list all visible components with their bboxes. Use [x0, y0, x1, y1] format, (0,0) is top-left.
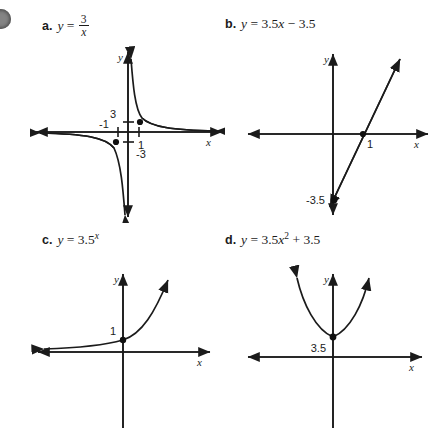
equation-b-constant: − 3.5	[288, 16, 316, 31]
graph-a-point-1-3	[137, 119, 143, 125]
graph-b-y-axis-letter: y	[323, 53, 329, 65]
graph-b-point-x-intercept	[360, 131, 366, 137]
graph-d-y-axis-letter: y	[323, 273, 329, 285]
choice-label-a: a.y = 3x	[42, 14, 90, 39]
equation-b-variable: x	[278, 16, 284, 31]
graph-c-y-axis-letter: y	[113, 273, 119, 285]
choice-tag-b: b.	[225, 17, 236, 31]
choice-label-d: d.y = 3.5x2 + 3.5	[225, 231, 320, 246]
graph-a-branch-lower-left-arrow	[40, 133, 114, 148]
equation-a: y = 3x	[57, 18, 89, 33]
graph-d-x-axis-letter: x	[408, 361, 414, 373]
equation-d-constant: + 3.5	[292, 232, 320, 247]
graph-b-line: 1 -3.5 y x	[240, 45, 435, 223]
fraction-denominator: x	[79, 25, 89, 38]
equation-b-lhs: y	[241, 16, 247, 31]
graph-b-point-y-intercept	[331, 197, 338, 204]
equation-c-equals: =	[67, 232, 75, 247]
graph-d-svg: 3.5 y x	[240, 262, 435, 432]
fraction-numerator: 3	[79, 13, 89, 25]
graph-a-point-neg1-neg3	[113, 139, 119, 145]
graph-a-label-neg1: -1	[99, 118, 109, 130]
graph-b-label-1: 1	[367, 138, 373, 150]
fraction-3-over-x: 3x	[79, 13, 89, 38]
cropped-bullet-marker	[0, 9, 11, 29]
equation-d-power: 2	[284, 230, 289, 240]
choice-label-b: b.y = 3.5x − 3.5	[225, 17, 316, 31]
choice-tag-a: a.	[42, 19, 52, 33]
graph-b-label-neg3point5: -3.5	[306, 194, 325, 206]
choice-tag-c: c.	[42, 233, 52, 247]
equation-d-lhs: y	[241, 232, 247, 247]
graph-a-x-axis-letter: x	[205, 136, 211, 148]
graph-a-branch-upper-right-arrow	[142, 118, 216, 131]
equation-b-equals: =	[250, 16, 258, 31]
graph-c-svg: 1 y x	[30, 262, 225, 432]
graph-b-x-axis-letter: x	[413, 138, 419, 150]
equation-c: y = 3.5x	[57, 232, 98, 247]
graph-b-svg: 1 -3.5 y x	[240, 45, 435, 223]
equation-d: y = 3.5x2 + 3.5	[241, 232, 320, 247]
graph-a-svg: 3 -1 1 -3 y x	[30, 45, 225, 223]
graph-c-x-axis-letter: x	[196, 356, 202, 368]
graph-d-label-3point5: 3.5	[311, 342, 326, 354]
graph-c-label-1: 1	[110, 325, 116, 337]
equation-c-base: 3.5	[78, 232, 95, 247]
worksheet-page: a.y = 3x b.y = 3.5x − 3.5 c.y = 3.5x d.y…	[0, 0, 439, 434]
equation-d-equals: =	[250, 232, 258, 247]
graph-d-parabola: 3.5 y x	[240, 262, 435, 432]
graph-a-y-axis-letter: y	[117, 51, 123, 63]
equation-a-equals: =	[67, 18, 75, 33]
equation-c-lhs: y	[57, 232, 63, 247]
graph-c-exponential: 1 y x	[30, 262, 225, 432]
graph-a-label-3: 3	[110, 108, 116, 120]
equation-b-coefficient: 3.5	[261, 16, 278, 31]
graph-a-label-neg3: -3	[136, 148, 146, 160]
equation-a-lhs: y	[57, 18, 63, 33]
equation-b: y = 3.5x − 3.5	[241, 16, 316, 31]
equation-d-coefficient: 3.5	[261, 232, 278, 247]
equation-c-exponent: x	[95, 230, 99, 240]
graph-c-curve	[44, 280, 168, 349]
choice-label-c: c.y = 3.5x	[42, 231, 99, 246]
choice-tag-d: d.	[225, 233, 236, 247]
graph-a-hyperbola: 3 -1 1 -3 y x	[30, 45, 225, 223]
graph-c-point-0-1	[120, 337, 126, 343]
graph-d-point-vertex	[330, 334, 337, 341]
